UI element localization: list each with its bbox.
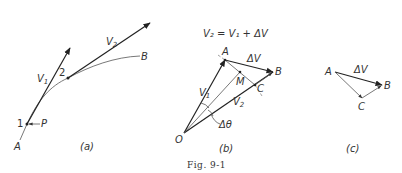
label-v2: V2	[233, 96, 245, 109]
vector-v2	[68, 23, 150, 78]
vector-v1	[27, 48, 70, 124]
point-2	[67, 77, 70, 80]
figure-9-1: 1 2 P A B V1 V2 (a) V₂ = V₁ + ΔV A B	[0, 0, 402, 173]
panel-c: A B C ΔV (c)	[324, 64, 391, 154]
label-o: O	[175, 134, 183, 145]
label-b: B	[275, 66, 282, 77]
segment-cb	[362, 86, 381, 98]
panel-c-label: (c)	[346, 143, 359, 154]
label-b: B	[141, 51, 148, 62]
label-p: P	[41, 118, 48, 129]
label-m: M	[236, 76, 245, 87]
label-delta-v: ΔV	[353, 64, 369, 75]
label-a: A	[13, 141, 21, 152]
label-v1: V1	[37, 73, 48, 86]
equation: V₂ = V₁ + ΔV	[203, 28, 269, 39]
label-delta-v: ΔV	[246, 53, 262, 64]
panel-a: 1 2 P A B V1 V2 (a)	[13, 23, 150, 152]
point-m	[239, 71, 242, 74]
label-point-2: 2	[59, 67, 65, 78]
point-a	[224, 59, 227, 62]
label-b: B	[384, 80, 391, 91]
label-c: C	[257, 83, 264, 94]
trajectory-curve	[20, 56, 140, 140]
point-c	[254, 84, 257, 87]
panel-b-label: (b)	[219, 143, 233, 154]
label-v2: V2	[106, 36, 118, 49]
point-1	[26, 123, 29, 126]
panel-a-label: (a)	[80, 141, 94, 152]
label-point-1: 1	[17, 118, 23, 129]
label-c: C	[358, 101, 365, 112]
label-a: A	[324, 66, 332, 77]
label-a: A	[221, 46, 229, 57]
figure-caption: Fig. 9-1	[187, 160, 226, 170]
label-delta-theta: Δθ	[218, 119, 232, 130]
panel-b: V₂ = V₁ + ΔV A B C M O ΔV V1 V2 Δθ (b) F…	[175, 28, 282, 170]
